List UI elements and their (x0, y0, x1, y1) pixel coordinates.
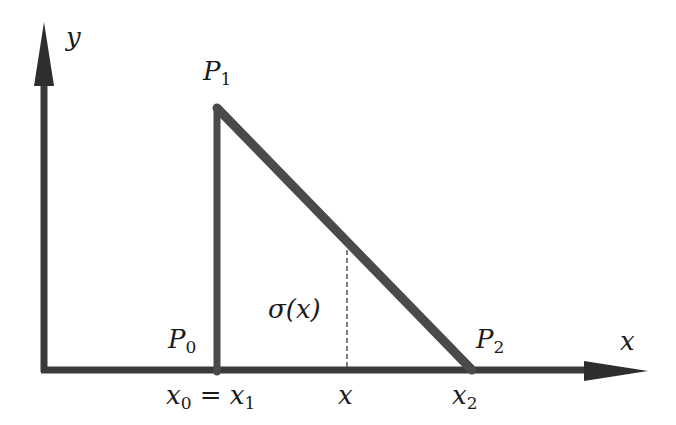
x2-subscript: 2 (467, 393, 478, 413)
tick-label-x: x (338, 382, 353, 408)
sigma-label-text: σ(x) (268, 294, 321, 324)
tick-label-x2: x2 (452, 382, 478, 412)
x0-name: x (166, 380, 181, 410)
x0-subscript: 0 (181, 393, 192, 413)
x-axis-label-text: x (620, 326, 635, 356)
x-tick-text: x (338, 380, 353, 410)
y-axis-arrow-icon (34, 22, 54, 86)
p0-name: P (168, 324, 186, 354)
p2-name: P (476, 324, 494, 354)
diagram-svg (0, 0, 676, 425)
x-axis-label: x (620, 328, 635, 354)
y-axis-label-text: y (66, 22, 81, 52)
equals-sign: = (200, 380, 222, 410)
x2-name: x (452, 380, 467, 410)
x1-subscript: 1 (245, 393, 256, 413)
p0-subscript: 0 (186, 337, 197, 357)
point-label-p0: P0 (168, 326, 196, 356)
tick-label-x0-eq-x1: x0 = x1 (166, 382, 255, 412)
p1-name: P (203, 56, 221, 86)
edge-p1-p2 (217, 108, 472, 370)
sigma-label: σ(x) (268, 296, 321, 322)
p2-subscript: 2 (494, 337, 505, 357)
x1-name: x (230, 380, 245, 410)
x-axis-arrow-icon (584, 361, 648, 381)
p1-subscript: 1 (221, 69, 232, 89)
point-label-p1: P1 (203, 58, 231, 88)
diagram-canvas: y x P1 P0 P2 σ(x) x0 = x1 x x2 (0, 0, 676, 425)
y-axis-label: y (66, 24, 81, 50)
point-label-p2: P2 (476, 326, 504, 356)
